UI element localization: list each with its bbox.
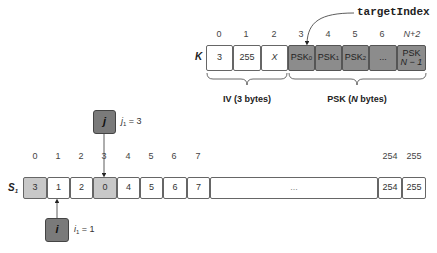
key-index: 4 [315,29,341,39]
state-cell: 2 [70,177,93,199]
i-value-label: i1 = 1 [74,224,95,235]
key-array-label: K [195,51,202,62]
key-cell-psk: PSK1 [315,45,342,71]
key-cell-psk: PSK0 [288,45,315,71]
state-index: 7 [185,151,211,161]
key-index: 5 [342,29,368,39]
state-index: 254 [377,151,403,161]
key-cell-psk-last: PSK N − 1 [397,45,426,71]
state-index: 3 [91,151,117,161]
state-index: 255 [401,151,427,161]
key-cell-psk: PSK2 [342,45,369,71]
state-cell: 5 [140,177,163,199]
state-cell-swapped: 3 [23,177,47,199]
key-index: 6 [369,29,395,39]
state-cell: 4 [117,177,140,199]
state-cell: 255 [402,177,426,199]
key-index: 0 [206,29,232,39]
key-cell-iv: 255 [233,45,261,71]
key-cell-iv: X [261,45,288,71]
j-value-label: j1 = 3 [121,116,142,127]
key-index: 3 [288,29,314,39]
iv-brace-label: IV (3 bytes) [212,94,282,104]
state-cell: 1 [47,177,70,199]
key-index: N+2 [398,29,426,39]
psk-brace-label: PSK (N bytes) [320,94,394,104]
key-index: 2 [261,29,287,39]
key-cell-iv: 3 [206,45,233,71]
i-pointer-box: i [45,218,69,242]
state-cell: 254 [378,177,402,199]
key-index: 1 [233,29,259,39]
state-cell: 7 [187,177,210,199]
state-cell: 6 [163,177,187,199]
j-pointer-box: j [93,110,116,134]
state-cell-swapped: 0 [93,177,117,199]
key-cell-psk: ... [369,45,397,71]
state-cell-ellipsis: ... [210,177,378,199]
state-index: 6 [161,151,187,161]
state-array-label: S1 [8,182,18,194]
